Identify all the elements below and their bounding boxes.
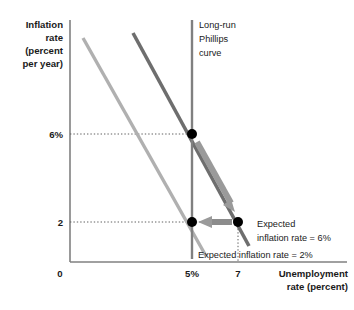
expected-inflation-6-line-1: Expected <box>257 219 295 229</box>
x-axis-title-line-2: rate (percent) <box>287 281 348 292</box>
dot-2pct-at-natural-rate <box>187 217 197 227</box>
y-tick-label-2: 2 <box>58 217 63 228</box>
y-tick-label-6pct: 6% <box>49 129 63 140</box>
y-axis-title-line-4: per year) <box>22 58 63 69</box>
lrpc-label-line-1: Long-run <box>199 20 236 30</box>
y-axis-title-line-3: (percent <box>25 45 64 56</box>
lrpc-label-line-3: curve <box>199 48 221 58</box>
dot-2pct-at-7pct-unemployment <box>233 217 243 227</box>
origin-label: 0 <box>57 268 62 279</box>
x-tick-label-5pct: 5% <box>185 268 199 279</box>
x-axis-title-line-1: Unemployment <box>279 268 349 279</box>
expected-inflation-2-label: Expected inflation rate = 2% <box>198 250 313 260</box>
x-tick-label-7: 7 <box>235 268 240 279</box>
expected-inflation-6-line-2: inflation rate = 6% <box>257 233 331 243</box>
y-axis-title-line-2: rate <box>45 32 63 43</box>
phillips-curve-chart: Inflation rate (percent per year) 6% 2 0… <box>0 0 354 310</box>
dot-6pct-at-natural-rate <box>187 129 197 139</box>
lrpc-label-line-2: Phillips <box>199 34 229 44</box>
y-axis-title-line-1: Inflation <box>26 19 63 30</box>
phillips-curve-figure: Inflation rate (percent per year) 6% 2 0… <box>0 0 354 310</box>
